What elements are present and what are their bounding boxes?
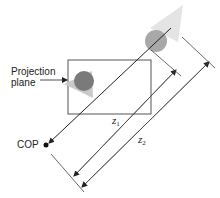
z1-label: z1 — [112, 115, 120, 130]
cop-label: COP — [17, 139, 39, 150]
projection-plane-label-1: Projection — [11, 66, 55, 77]
far-circle-shape — [145, 30, 167, 52]
projection-plane-label-2: plane — [11, 77, 35, 88]
perspective-projection-diagram: Projection plane COP z1 z2 — [0, 0, 220, 198]
diagram-canvas — [0, 0, 220, 198]
z2-label: z2 — [138, 134, 146, 149]
extension-line-far — [182, 37, 215, 68]
near-circle-shape — [74, 71, 94, 91]
z2-sub: 2 — [142, 139, 146, 147]
extension-line-cop — [51, 154, 84, 192]
cop-point — [44, 143, 49, 148]
extension-line-plane — [151, 50, 181, 76]
z1-sub: 1 — [116, 120, 120, 128]
